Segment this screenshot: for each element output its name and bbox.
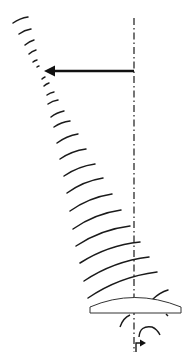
wavefront-diagram (0, 0, 190, 361)
wavefront-arc (84, 257, 149, 281)
wavefront-arc (47, 92, 54, 95)
wavefront-arcs (13, 17, 168, 299)
wavefront-arc (33, 60, 37, 62)
arrow-left-icon (44, 66, 55, 77)
wavefront-arc (54, 121, 70, 127)
wavefront-arc (76, 226, 130, 246)
rotation-arrow-icon (140, 340, 146, 347)
wavefront-arc (42, 77, 45, 79)
wavefront-arc (19, 29, 31, 34)
lens-right-tick (166, 314, 168, 316)
lens-shape (90, 298, 181, 314)
wavefront-arc (70, 194, 112, 211)
rotation-indicator (136, 340, 146, 353)
lens (90, 298, 181, 314)
wavefront-arc (13, 17, 28, 23)
wavefront-arc (153, 290, 168, 299)
wavefront-arc (64, 164, 95, 176)
lower-right-arc (139, 327, 160, 337)
wavefront-arc (37, 66, 39, 67)
wavefront-arc (29, 50, 36, 54)
wavefront-arc (51, 111, 64, 117)
wavefront-arc (44, 83, 49, 86)
wavefront-arc (88, 272, 157, 298)
wavefront-arc (57, 134, 78, 143)
wavefront-arc (48, 100, 58, 104)
wavefront-arc (73, 210, 121, 229)
lateral-displacement-arrow (44, 66, 134, 77)
wavefront-arc (67, 178, 103, 193)
wavefront-arc (25, 40, 34, 45)
emission-arcs (120, 314, 168, 337)
wavefront-arc (60, 149, 86, 159)
lower-left-arc (120, 315, 130, 327)
